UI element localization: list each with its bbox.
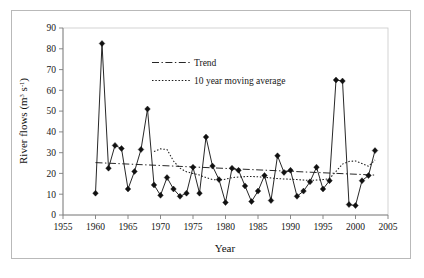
x-tick-1985: 1985 xyxy=(249,222,268,232)
y-tick-40: 40 xyxy=(47,127,57,137)
y-axis-tick-labels: 0 10 20 30 40 50 60 70 80 90 xyxy=(47,23,57,220)
x-tick-2005: 2005 xyxy=(379,222,398,232)
legend-label-trend: Trend xyxy=(194,58,217,68)
x-tick-1980: 1980 xyxy=(216,222,235,232)
legend-label-moving-average: 10 year moving average xyxy=(194,76,286,86)
x-tick-1955: 1955 xyxy=(54,222,73,232)
x-axis-ticks xyxy=(63,215,388,219)
y-tick-70: 70 xyxy=(47,65,57,75)
y-tick-30: 30 xyxy=(47,148,57,158)
x-axis-title: Year xyxy=(215,242,236,254)
x-axis-tick-labels: 1955 1960 1965 1970 1975 1980 1985 1990 … xyxy=(54,222,398,232)
y-tick-50: 50 xyxy=(47,106,57,116)
x-tick-1965: 1965 xyxy=(119,222,138,232)
y-axis-title-end: ) xyxy=(17,78,30,82)
y-tick-10: 10 xyxy=(47,190,57,200)
plot-area-frame xyxy=(63,28,388,215)
x-tick-1975: 1975 xyxy=(184,222,203,232)
y-axis-title: River flows (m3 s-1) xyxy=(17,78,30,164)
y-tick-90: 90 xyxy=(47,23,57,33)
y-tick-60: 60 xyxy=(47,86,57,96)
svg-text:River flows (m3 s-1): River flows (m3 s-1) xyxy=(17,78,30,164)
river-flows-line-chart: 0 10 20 30 40 50 60 70 80 90 1955 xyxy=(0,0,424,278)
x-tick-1990: 1990 xyxy=(281,222,300,232)
y-tick-20: 20 xyxy=(47,169,57,179)
x-tick-1995: 1995 xyxy=(314,222,333,232)
x-tick-2000: 2000 xyxy=(346,222,365,232)
y-tick-0: 0 xyxy=(51,210,56,220)
y-axis-title-mid: s xyxy=(17,87,29,94)
y-axis-title-main: River flows (m xyxy=(17,97,30,164)
x-tick-1970: 1970 xyxy=(151,222,170,232)
figure-container: 0 10 20 30 40 50 60 70 80 90 1955 xyxy=(0,0,424,278)
y-axis-ticks xyxy=(59,28,63,215)
x-tick-1960: 1960 xyxy=(86,222,105,232)
y-tick-80: 80 xyxy=(47,44,57,54)
